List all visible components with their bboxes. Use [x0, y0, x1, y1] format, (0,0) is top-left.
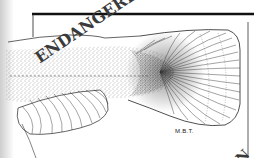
artist-signature: M.B.T. [175, 128, 194, 134]
illustration-canvas: ENDANGERED EN M.B.T. [0, 0, 254, 158]
fish-tail-drawing [0, 0, 254, 158]
